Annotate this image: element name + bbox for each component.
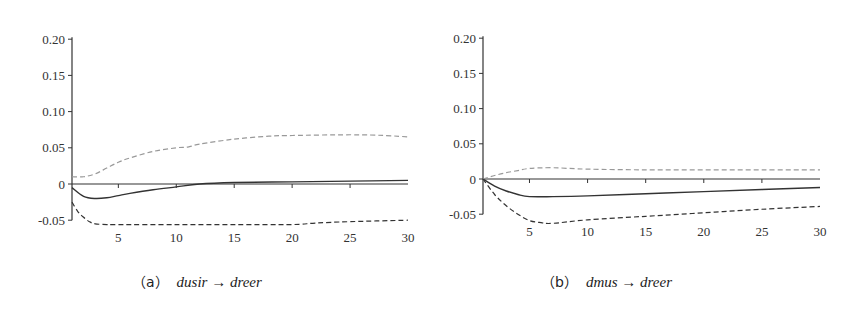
- caption-a-expression: dusir → dreer: [177, 274, 262, 290]
- caption-b-expression: dmus → dreer: [586, 274, 672, 290]
- series-upper-band: [483, 168, 820, 179]
- caption-b-label: （b）: [541, 274, 578, 290]
- chart-panel-a: -0.0500.050.100.150.2051015202530 （a）dus…: [0, 0, 423, 314]
- chart-panel-b: -0.0500.050.100.150.2051015202530 （b）dmu…: [423, 0, 846, 314]
- x-tick-label: 15: [228, 230, 241, 245]
- x-tick-label: 20: [697, 224, 710, 239]
- series-lower-band: [483, 179, 820, 224]
- x-tick-label: 30: [402, 230, 415, 245]
- caption-b: （b）dmus → dreer: [541, 271, 672, 291]
- series-lower-band: [72, 202, 408, 225]
- x-tick-label: 5: [526, 224, 533, 239]
- x-tick-label: 30: [814, 224, 827, 239]
- x-tick-label: 25: [755, 224, 768, 239]
- y-tick-label: -0.05: [449, 207, 476, 222]
- y-tick-label: 0.05: [453, 136, 476, 151]
- x-tick-label: 20: [286, 230, 299, 245]
- x-tick-label: 10: [170, 230, 183, 245]
- caption-a: （a）dusir → dreer: [132, 271, 262, 291]
- x-tick-label: 10: [581, 224, 594, 239]
- irf-chart-b: -0.0500.050.100.150.2051015202530: [423, 0, 846, 260]
- y-tick-label: 0.05: [42, 140, 65, 155]
- y-tick-label: 0.15: [453, 66, 476, 81]
- series-response: [483, 179, 820, 197]
- irf-chart-a: -0.0500.050.100.150.2051015202530: [0, 0, 423, 260]
- x-tick-label: 25: [344, 230, 357, 245]
- y-tick-label: -0.05: [38, 213, 65, 228]
- y-tick-label: 0: [470, 172, 477, 187]
- x-tick-label: 15: [639, 224, 652, 239]
- x-tick-label: 5: [115, 230, 122, 245]
- series-response: [72, 180, 408, 198]
- y-tick-label: 0: [59, 177, 66, 192]
- y-tick-label: 0.15: [42, 68, 65, 83]
- y-tick-label: 0.10: [42, 104, 65, 119]
- caption-a-label: （a）: [132, 274, 169, 290]
- series-upper-band: [72, 135, 408, 177]
- y-tick-label: 0.10: [453, 101, 476, 116]
- y-tick-label: 0.20: [453, 31, 476, 46]
- y-tick-label: 0.20: [42, 32, 65, 47]
